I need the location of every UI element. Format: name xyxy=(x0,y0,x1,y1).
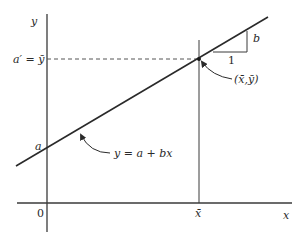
mean-point xyxy=(197,57,201,61)
equation-arrow xyxy=(81,135,110,153)
rise-label: b xyxy=(253,32,260,45)
intercept-label: a xyxy=(35,140,42,153)
regression-diagram: y x 0 a′ = ȳ a x̄ (x̄,ȳ) y = a + bx 1 b xyxy=(0,0,307,238)
y-mean-label: a′ = ȳ xyxy=(13,53,45,66)
y-axis-label: y xyxy=(30,15,38,28)
mean-point-label: (x̄,ȳ) xyxy=(234,73,259,86)
run-label: 1 xyxy=(228,54,235,67)
regression-line xyxy=(16,17,268,166)
x-mean-label: x̄ xyxy=(195,207,202,220)
x-axis-label: x xyxy=(283,209,290,222)
origin-label: 0 xyxy=(37,207,44,220)
equation-label: y = a + bx xyxy=(113,147,173,160)
slope-triangle xyxy=(213,31,247,52)
